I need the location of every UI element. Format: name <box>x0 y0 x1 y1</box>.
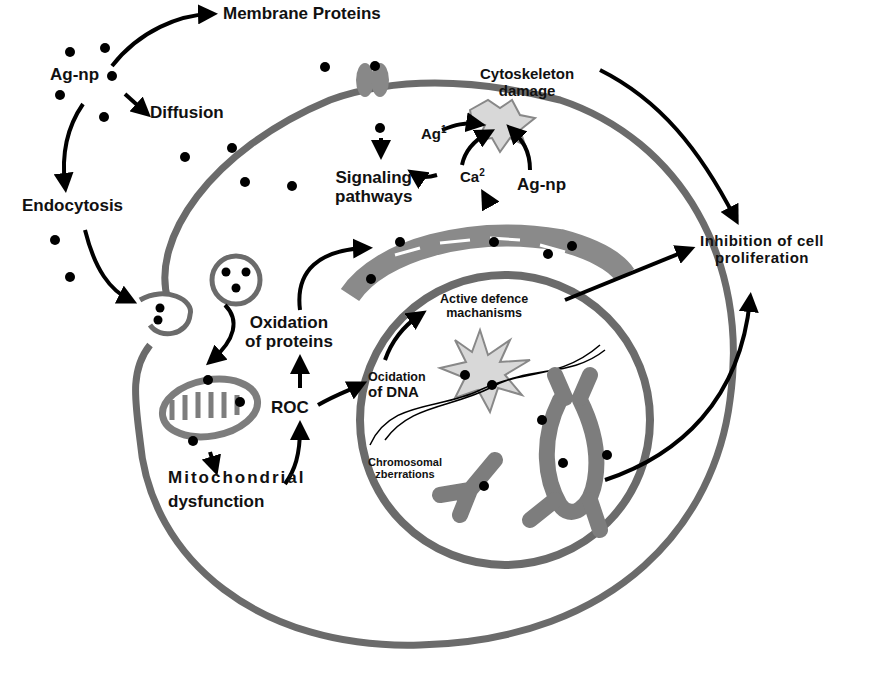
label-chromosomal-l1: Chromosomal <box>368 456 442 468</box>
label-oxidation-dna-l1: Ocidation <box>368 370 426 384</box>
label-ag-np-inside: Ag-np <box>517 175 566 194</box>
label-inhibition-l2: proliferation <box>700 250 824 267</box>
endocytic-vesicle-forming <box>140 294 191 334</box>
label-ag-ion: Ag1 <box>421 124 447 143</box>
vesicle <box>212 256 260 304</box>
label-endocytosis: Endocytosis <box>22 196 123 215</box>
label-active-defence-l2: machanisms <box>440 306 528 320</box>
label-dysfunction: dysfunction <box>168 492 264 511</box>
label-cytoskeleton-damage: Cytoskeleton damage <box>480 66 574 100</box>
label-active-defence: Active defence machanisms <box>440 292 528 320</box>
label-signaling-l2: pathways <box>335 187 412 206</box>
ag-ion-sup: 1 <box>441 124 447 135</box>
label-ag-np-outside: Ag-np <box>50 65 99 84</box>
label-chromosomal-l2: zberrations <box>368 468 442 480</box>
label-cytoskeleton-l1: Cytoskeleton <box>480 66 574 83</box>
nanoparticles <box>50 43 385 282</box>
label-membrane-proteins: Membrane Proteins <box>223 4 381 23</box>
label-inhibition-l1: Inhibition of cell <box>700 233 824 250</box>
label-inhibition: Inhibition of cell proliferation <box>700 233 824 267</box>
cell-membrane <box>136 83 734 645</box>
mitochondrion <box>158 372 262 446</box>
label-cytoskeleton-l2: damage <box>480 83 574 100</box>
diagram-graphics <box>0 0 874 691</box>
label-signaling-l1: Signaling <box>335 168 412 187</box>
label-calcium: Ca2 <box>460 167 485 186</box>
label-mitochondrial: Mitochondrial <box>168 468 305 487</box>
ag-ion-text: Ag <box>421 125 441 142</box>
label-oxidation-dna: Ocidation of DNA <box>368 370 426 401</box>
label-signaling-pathways: Signaling pathways <box>335 168 412 206</box>
calcium-sup: 2 <box>479 167 485 178</box>
label-oxidation-proteins-l2: of proteins <box>245 332 333 351</box>
label-active-defence-l1: Active defence <box>440 292 528 306</box>
label-oxidation-proteins: Oxidation of proteins <box>245 313 333 351</box>
label-oxidation-dna-l2: of DNA <box>368 384 426 401</box>
label-roc: ROC <box>271 398 309 417</box>
endoplasmic-reticulum <box>350 236 625 295</box>
label-chromosomal-aberrations: Chromosomal zberrations <box>368 456 442 481</box>
calcium-text: Ca <box>460 168 479 185</box>
diagram-canvas: Ag-np Membrane Proteins Diffusion Endocy… <box>0 0 874 691</box>
label-diffusion: Diffusion <box>150 103 224 122</box>
label-oxidation-proteins-l1: Oxidation <box>245 313 333 332</box>
